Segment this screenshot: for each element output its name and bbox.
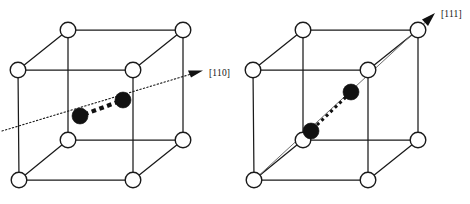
direction-label-111: [111]	[441, 9, 462, 19]
lattice-node-back-bottom-left	[60, 132, 76, 148]
edge-front-left	[253, 70, 254, 180]
direction-guide-line-110	[2, 72, 198, 131]
direction-guide-line-111	[254, 18, 430, 180]
crystal-direction-diagram: [110]	[0, 0, 470, 204]
edge-front-left	[18, 70, 19, 180]
edge-connect-top-left	[253, 30, 303, 70]
edge-connect-bottom-right	[133, 140, 183, 180]
lattice-node-front-bottom-right	[360, 172, 376, 188]
lattice-node-back-top-left	[60, 22, 76, 38]
lattice-node-front-top-right	[125, 62, 141, 78]
lattice-node-back-bottom-right	[175, 132, 191, 148]
atom-upper-right-111	[343, 84, 359, 100]
edge-connect-bottom-left	[19, 140, 68, 180]
edge-connect-top-left	[18, 30, 68, 70]
atom-upper-right-110	[115, 92, 131, 108]
arrow-head-110	[188, 71, 203, 78]
lattice-node-front-bottom-left	[11, 172, 27, 188]
lattice-node-back-top-right	[175, 22, 191, 38]
figure-root: [110]	[0, 0, 470, 204]
lattice-node-back-top-right	[410, 22, 426, 38]
lattice-node-front-top-right	[360, 62, 376, 78]
bond-dashed-111	[317, 97, 346, 125]
lattice-node-front-top-left	[245, 62, 261, 78]
lattice-node-front-bottom-left	[246, 172, 262, 188]
lattice-node-back-bottom-right	[410, 132, 426, 148]
lattice-node-front-bottom-right	[125, 172, 141, 188]
lattice-node-back-top-left	[295, 22, 311, 38]
lattice-node-front-top-left	[10, 62, 26, 78]
direction-label-110: [110]	[209, 68, 230, 78]
atom-lower-left-110	[72, 108, 88, 124]
edge-connect-bottom-right	[368, 140, 418, 180]
left-panel-cube-110: [110]	[2, 22, 230, 188]
edge-connect-top-right	[133, 30, 183, 70]
bond-dashed-110	[84, 102, 119, 115]
edge-connect-bottom-left	[254, 140, 303, 180]
right-panel-cube-111: [111]	[245, 9, 462, 188]
atom-lower-left-111	[303, 123, 319, 139]
